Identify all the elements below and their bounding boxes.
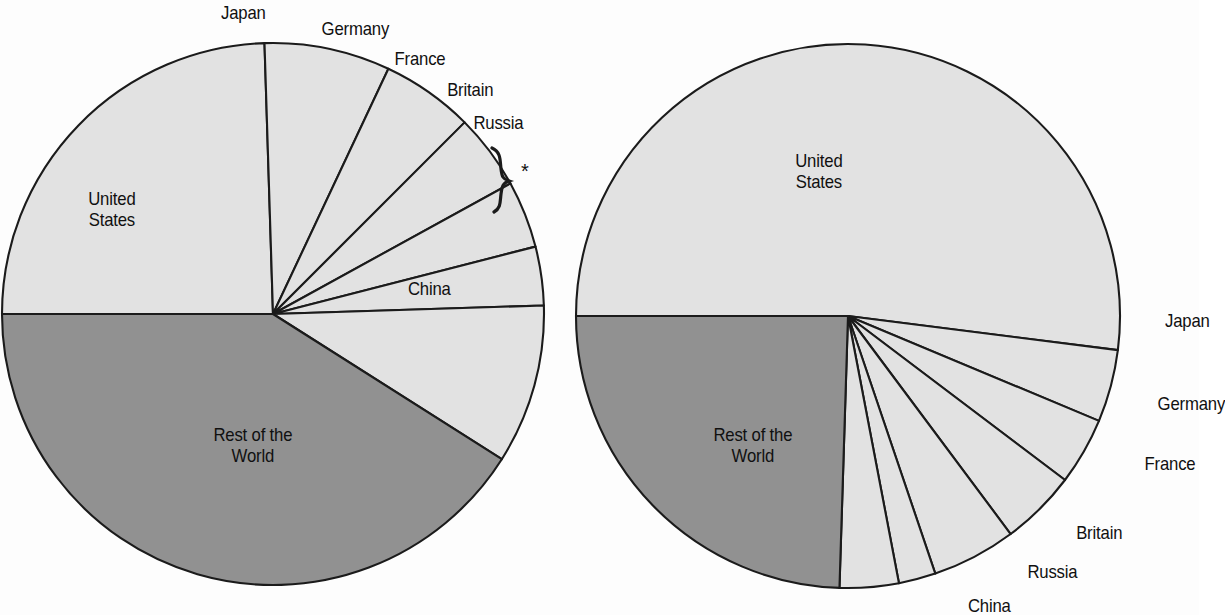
right-pie-label-germany: Germany <box>1158 393 1225 414</box>
right-pie-label-rest-of-the-world-line-1: Rest of the <box>713 424 792 445</box>
left-pie-label-rest-of-the-world-line-1: Rest of the <box>213 424 292 445</box>
left-pie-label-rest-of-the-world-line-2: World <box>213 445 292 466</box>
right-pie-label-united-states-line-1: United <box>795 150 842 171</box>
right-pie-label-russia: Russia <box>1027 561 1077 582</box>
left-pie-label-united-states-line-1: United <box>88 188 135 209</box>
left-pie-label-france: France <box>394 48 445 69</box>
left-pie-label-britain-line-1: Britain <box>447 79 493 100</box>
left-pie-label-france-line-1: France <box>394 48 445 69</box>
right-pie-chart <box>576 44 1120 588</box>
left-pie-label-china: China <box>408 278 451 299</box>
right-pie-label-britain: Britain <box>1076 522 1122 543</box>
right-pie-label-russia-line-1: Russia <box>1027 561 1077 582</box>
left-pie-slice-united-states <box>2 43 273 314</box>
right-pie-label-japan-line-1: Japan <box>1165 310 1210 331</box>
right-pie-label-china-line-1: China <box>968 595 1011 615</box>
right-pie-label-united-states-line-2: States <box>795 171 842 192</box>
right-pie-label-britain-line-1: Britain <box>1076 522 1122 543</box>
right-pie-label-rest-of-the-world-line-2: World <box>713 445 792 466</box>
left-pie-label-germany: Germany <box>322 18 390 39</box>
right-pie-label-japan: Japan <box>1165 310 1210 331</box>
right-pie-label-germany-line-1: Germany <box>1158 393 1225 414</box>
left-pie-label-united-states-line-2: States <box>88 209 135 230</box>
left-pie-chart <box>2 43 544 585</box>
right-pie-label-united-states: UnitedStates <box>795 150 842 192</box>
left-pie-label-china-line-1: China <box>408 278 451 299</box>
left-pie-label-britain: Britain <box>447 79 493 100</box>
left-pie-label-japan-line-1: Japan <box>221 2 266 23</box>
left-pie-label-russia: Russia <box>473 112 523 133</box>
right-pie-label-china: China <box>968 595 1011 615</box>
right-pie-slice-rest-of-the-world <box>576 316 848 588</box>
right-pie-label-rest-of-the-world: Rest of theWorld <box>713 424 792 466</box>
left-pie-label-germany-line-1: Germany <box>322 18 390 39</box>
footnote-asterisk: * <box>521 160 529 183</box>
left-pie-label-rest-of-the-world: Rest of theWorld <box>213 424 292 466</box>
right-pie-slice-united-states <box>576 44 1120 350</box>
right-pie-label-france: France <box>1144 453 1195 474</box>
left-pie-label-russia-line-1: Russia <box>473 112 523 133</box>
left-pie-label-united-states: UnitedStates <box>88 188 135 230</box>
right-pie-label-france-line-1: France <box>1144 453 1195 474</box>
left-pie-label-japan: Japan <box>221 2 266 23</box>
